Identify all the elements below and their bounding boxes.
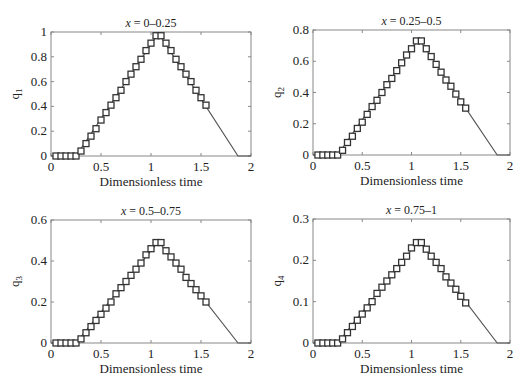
x-axis-label: Dimensionless time [360,173,463,188]
square-marker [389,75,395,81]
y-tick-label: 1 [41,24,48,39]
y-axis-label: q3 [7,276,24,288]
x-axis-label: Dimensionless time [360,361,463,376]
subplot-q2: 00.511.5200.20.40.60.8x = 0.25–0.5Dimens… [269,14,513,188]
square-marker [369,299,375,305]
y-axis-label: q1 [7,89,24,100]
data-line [313,241,510,344]
data-markers [53,240,209,346]
y-tick-label: 0.6 [293,53,310,68]
square-marker [344,330,350,336]
plot-area-frame [51,32,251,156]
square-marker [203,299,209,305]
x-tick-label: 1.5 [453,346,469,361]
square-marker [344,140,350,146]
x-tick-label: 2 [248,346,255,361]
y-tick-label: 0.4 [31,253,48,268]
x-tick-label: 0.5 [354,158,370,173]
square-marker [143,48,149,54]
square-marker [188,79,194,85]
x-tick-label: 0 [48,159,55,174]
square-marker [394,68,400,74]
x-tick-label: 1.5 [193,346,209,361]
square-marker [448,280,454,286]
x-tick-label: 1.5 [193,159,209,174]
y-tick-label: 0.8 [31,49,47,64]
y-tick-label: 0 [41,335,48,350]
y-tick-label: 0.2 [31,294,47,309]
y-tick-label: 0.2 [293,252,309,267]
square-marker [113,95,119,101]
square-marker [423,246,429,252]
square-marker [163,248,169,254]
x-tick-label: 0.5 [93,159,109,174]
subplot-q4: 00.511.5200.10.20.3x = 0.75–1Dimensionle… [269,203,513,376]
square-marker [354,317,360,323]
square-marker [168,48,174,54]
subplot-title: x = 0.25–0.5 [380,14,441,28]
square-marker [138,56,144,62]
square-marker [158,33,164,39]
x-tick-label: 1.5 [453,158,469,173]
x-tick-label: 1 [148,346,155,361]
y-axis-ticks: 00.20.40.60.8 [293,22,510,162]
square-marker [404,52,410,58]
square-marker [448,83,454,89]
y-axis-label: q4 [269,275,286,287]
square-marker [128,71,134,77]
square-marker [418,240,424,246]
y-tick-label: 0 [303,147,310,162]
x-tick-label: 1 [408,346,415,361]
x-tick-label: 0 [310,346,317,361]
square-marker [78,336,84,342]
data-line [313,39,510,155]
square-marker [428,253,434,259]
x-tick-label: 0 [310,158,317,173]
square-marker [423,46,429,52]
square-marker [364,305,370,311]
square-marker [458,99,464,105]
square-marker [443,77,449,83]
square-marker [83,330,89,336]
square-marker [354,125,360,131]
square-marker [340,147,346,153]
y-tick-label: 0.4 [31,98,48,113]
square-marker [438,266,444,272]
square-marker [138,260,144,266]
y-axis-label: q2 [269,87,286,98]
square-marker [399,60,405,66]
x-tick-label: 0.5 [354,346,370,361]
plot-area-frame [51,220,251,343]
square-marker [103,305,109,311]
square-marker [193,87,199,93]
square-marker [349,323,355,329]
subplot-title: x = 0–0.25 [124,16,176,30]
square-marker [188,281,194,287]
square-marker [379,284,385,290]
y-tick-label: 0.6 [31,74,48,89]
square-marker [173,56,179,62]
square-marker [384,278,390,284]
square-marker [203,102,209,108]
y-axis-ticks: 00.20.40.6 [31,212,251,350]
y-tick-label: 0.1 [293,294,309,309]
square-marker [143,252,149,258]
square-marker [98,117,104,123]
square-marker [183,71,189,77]
y-tick-label: 0.3 [293,211,309,226]
data-markers [315,240,469,346]
square-marker [198,95,204,101]
square-marker [349,133,355,139]
square-marker [198,293,204,299]
square-marker [379,90,385,96]
square-marker [128,272,134,278]
y-tick-label: 0 [41,148,48,163]
square-marker [78,148,84,154]
square-marker [123,79,129,85]
x-tick-label: 0 [48,346,55,361]
subplot-title: x = 0.5–0.75 [120,204,181,218]
square-marker [359,119,365,125]
square-marker [88,324,94,330]
square-marker [458,293,464,299]
square-marker [178,266,184,272]
